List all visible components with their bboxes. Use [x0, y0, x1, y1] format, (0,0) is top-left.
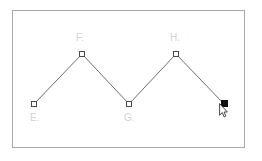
- drawing-canvas-frame[interactable]: [12, 10, 245, 148]
- vertex-marker-h[interactable]: [173, 51, 179, 57]
- vertex-label-e: E.: [30, 113, 39, 123]
- vertex-label-f: F.: [76, 33, 84, 43]
- vertex-marker-f[interactable]: [79, 51, 85, 57]
- screenshot-root: E. F. G. H.: [0, 0, 262, 161]
- vertex-label-h: H.: [170, 33, 180, 43]
- vertex-marker-e[interactable]: [31, 101, 37, 107]
- vertex-marker-g[interactable]: [126, 101, 132, 107]
- cursor-arrow-path: [220, 104, 228, 117]
- vertex-label-g: G.: [124, 113, 135, 123]
- mouse-pointer-icon: [219, 103, 228, 118]
